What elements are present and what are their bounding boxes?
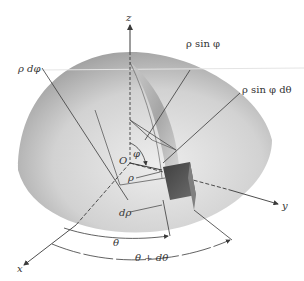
rho-sin-phi-dtheta-label: ρ sin φ dθ [242,84,292,95]
spherical-volume-element-diagram: z x y O ρ dφ ρ sin φ ρ sin φ dθ φ ρ dρ θ… [0,0,304,281]
rho-sin-phi-label: ρ sin φ [186,38,220,49]
theta-label: θ [113,237,119,248]
y-axis-label: y [281,200,288,211]
drho-label: dρ [119,207,131,218]
theta-plus-dtheta-label: θ + dθ [135,252,168,263]
rho-label: ρ [127,172,134,183]
rho-dphi-label: ρ dφ [17,63,40,74]
x-axis-label: x [17,263,23,274]
phi-label: φ [133,148,140,159]
origin-label: O [119,155,127,166]
z-axis-label: z [125,12,132,23]
